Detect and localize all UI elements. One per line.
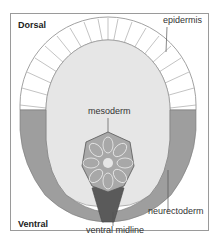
mesoderm-label: mesoderm	[88, 107, 131, 116]
ventral-midline-label: ventral midline	[86, 226, 144, 235]
ventral-label: Ventral	[18, 220, 48, 229]
dorsal-label: Dorsal	[18, 21, 46, 30]
neurectoderm-label: neurectoderm	[148, 207, 204, 216]
epidermis-label: epidermis	[163, 16, 202, 25]
